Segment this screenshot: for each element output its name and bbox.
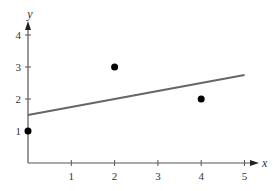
x-tick-label: 3 [155, 170, 161, 182]
y-tick-label: 4 [16, 29, 22, 41]
x-tick-label: 4 [198, 170, 204, 182]
regression-line [28, 75, 245, 115]
data-point [111, 64, 118, 71]
x-axis-label: x [261, 156, 268, 170]
x-axis-arrow-icon [250, 160, 259, 166]
x-tick-label: 1 [69, 170, 75, 182]
y-tick-label: 2 [16, 93, 22, 105]
y-axis-arrow-icon [25, 21, 31, 30]
y-axis-label: y [26, 7, 33, 21]
x-tick-label: 5 [242, 170, 248, 182]
series [25, 64, 245, 135]
x-tick-label: 2 [112, 170, 118, 182]
data-point [25, 128, 32, 135]
y-tick-label: 3 [16, 61, 22, 73]
y-tick-label: 1 [16, 125, 22, 137]
data-point [198, 96, 205, 103]
chart: 12345 1234 x y [0, 0, 279, 191]
y-ticks: 1234 [16, 29, 32, 137]
